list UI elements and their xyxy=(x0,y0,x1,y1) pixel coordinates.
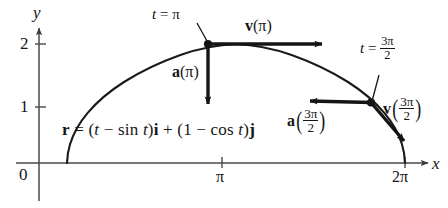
minus-sign-2: − xyxy=(196,120,206,139)
cos-function: cos xyxy=(211,120,234,139)
fraction-denominator: 2 xyxy=(380,48,394,62)
equals-sign: = xyxy=(368,40,376,56)
t-symbol: t xyxy=(152,6,156,22)
i-unit-vector: i xyxy=(154,120,159,139)
fraction-numerator: 3π xyxy=(303,107,318,120)
j-unit-vector: j xyxy=(249,120,255,139)
right-paren: ) xyxy=(416,100,422,118)
a-symbol: a xyxy=(172,63,180,80)
left-paren: ( xyxy=(296,112,302,130)
a-symbol: a xyxy=(287,112,295,129)
equals-sign: = xyxy=(74,120,84,139)
y-axis-label: y xyxy=(33,4,41,21)
label-a-3pi-2: a( 3π 2 ) xyxy=(287,108,327,136)
fraction-denominator: 2 xyxy=(303,120,318,135)
plus-sign: + xyxy=(163,120,173,139)
fraction-3pi-over-2: 3π 2 xyxy=(380,35,394,61)
right-paren: ) xyxy=(320,112,326,130)
y-tick-label-2: 2 xyxy=(20,35,29,52)
vector-a-3pi-2 xyxy=(310,101,371,103)
r-vector-symbol: r xyxy=(62,120,70,139)
parametric-equation: r = (t − sin t)i + (1 − cos t)j xyxy=(62,121,255,138)
v-pi-argument: (π) xyxy=(253,17,272,34)
y-tick-label-1: 1 xyxy=(20,98,29,115)
sin-function: sin xyxy=(118,120,138,139)
origin-label: 0 xyxy=(19,166,28,183)
equals-sign: = xyxy=(160,6,168,22)
v-symbol: v xyxy=(383,100,391,117)
leader-line-t-3pi-2 xyxy=(373,75,380,100)
label-a-pi: a(π) xyxy=(172,64,199,80)
minus-sign-1: − xyxy=(104,120,114,139)
leader-line-t-pi xyxy=(197,23,207,41)
t-symbol: t xyxy=(360,40,364,56)
fraction-3pi-over-2: 3π 2 xyxy=(303,107,318,135)
fraction-numerator: 3π xyxy=(380,35,394,48)
fraction-3pi-over-2: 3π 2 xyxy=(399,95,414,123)
x-tick-label-pi: π xyxy=(216,169,224,185)
cycloid-figure: y x 2 1 0 π 2π t = π t = 3π 2 v(π) a(π) … xyxy=(0,0,448,208)
a-pi-argument: (π) xyxy=(180,63,199,80)
one-constant: 1 xyxy=(183,120,192,139)
fraction-denominator: 2 xyxy=(399,108,414,123)
x-tick-label-2pi: 2π xyxy=(392,169,408,185)
label-v-pi: v(π) xyxy=(245,18,272,34)
fraction-numerator: 3π xyxy=(399,95,414,108)
x-axis-label: x xyxy=(432,155,440,172)
annotation-t-3pi-2: t = 3π 2 xyxy=(360,36,395,62)
t-symbol-1: t xyxy=(94,120,99,139)
label-v-3pi-2: v( 3π 2 ) xyxy=(383,96,423,124)
pi-value: π xyxy=(172,6,180,22)
left-paren: ( xyxy=(392,100,398,118)
v-symbol: v xyxy=(245,17,253,34)
annotation-t-pi: t = π xyxy=(152,7,180,22)
